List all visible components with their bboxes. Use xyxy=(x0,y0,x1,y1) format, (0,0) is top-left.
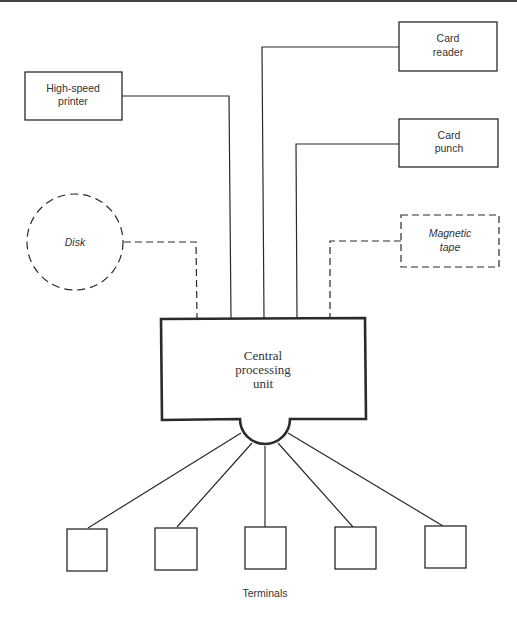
disk-connection-line xyxy=(124,242,197,318)
card-punch-box: Card punch xyxy=(399,119,498,167)
card-reader-label-line2: reader xyxy=(433,46,464,58)
card-punch-connection-line xyxy=(296,144,399,318)
terminal-5-box xyxy=(425,526,466,568)
magnetic-tape-box: Magnetic tape xyxy=(401,215,499,267)
terminals-label: Terminals xyxy=(243,587,288,599)
central-processing-unit-box: Central processing unit xyxy=(161,318,366,444)
disk-label: Disk xyxy=(65,236,86,248)
card-reader-label-line1: Card xyxy=(437,32,460,44)
printer-label-line2: printer xyxy=(58,95,88,107)
printer-label-line1: High-speed xyxy=(46,82,100,94)
disk-circle: Disk xyxy=(27,194,123,290)
card-punch-label-line2: punch xyxy=(435,142,464,154)
magnetic-tape-connection-line xyxy=(330,241,401,318)
cpu-label-line2: processing xyxy=(235,362,291,377)
computer-system-diagram: High-speed printer Card reader Card punc… xyxy=(0,0,517,617)
magnetic-tape-label-line2: tape xyxy=(440,241,461,253)
magnetic-tape-label-line1: Magnetic xyxy=(429,227,472,239)
cpu-label-line1: Central xyxy=(244,348,283,363)
terminal-1-box xyxy=(67,529,107,571)
card-reader-connection-line xyxy=(262,47,399,318)
printer-connection-line xyxy=(122,96,231,318)
card-punch-label-line1: Card xyxy=(438,129,461,141)
terminal-3-box xyxy=(245,527,286,569)
terminal-2-box xyxy=(155,528,197,570)
high-speed-printer-box: High-speed printer xyxy=(25,72,122,120)
terminal-2-connection-line xyxy=(177,443,252,527)
terminal-4-connection-line xyxy=(278,443,353,527)
card-reader-box: Card reader xyxy=(399,22,497,71)
terminal-4-box xyxy=(335,527,376,569)
cpu-label-line3: unit xyxy=(253,376,274,391)
